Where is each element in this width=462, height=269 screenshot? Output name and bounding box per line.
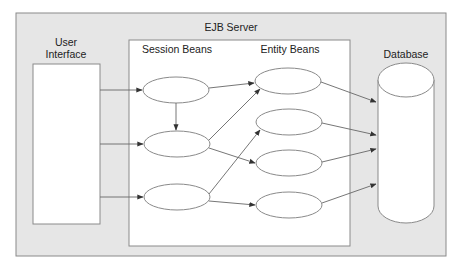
database-label: Database	[384, 48, 429, 60]
database-cylinder-top	[378, 63, 434, 97]
session-bean-1	[143, 77, 209, 103]
entity-bean-3	[256, 150, 322, 176]
entity-bean-2	[256, 109, 322, 135]
entity-beans-label: Entity Beans	[261, 43, 320, 55]
entity-bean-4	[256, 192, 322, 218]
user-interface-label-2: Interface	[46, 48, 87, 60]
ejb-architecture-diagram: EJB Server User Interface Session Beans …	[0, 0, 462, 269]
session-bean-2	[144, 131, 210, 157]
database-cylinder	[378, 80, 434, 223]
session-bean-3	[144, 184, 210, 210]
ejb-server-title: EJB Server	[204, 21, 258, 33]
user-interface-label-1: User	[55, 36, 78, 48]
entity-bean-1	[255, 68, 321, 94]
user-interface-box	[33, 64, 100, 224]
session-beans-label: Session Beans	[142, 43, 212, 55]
